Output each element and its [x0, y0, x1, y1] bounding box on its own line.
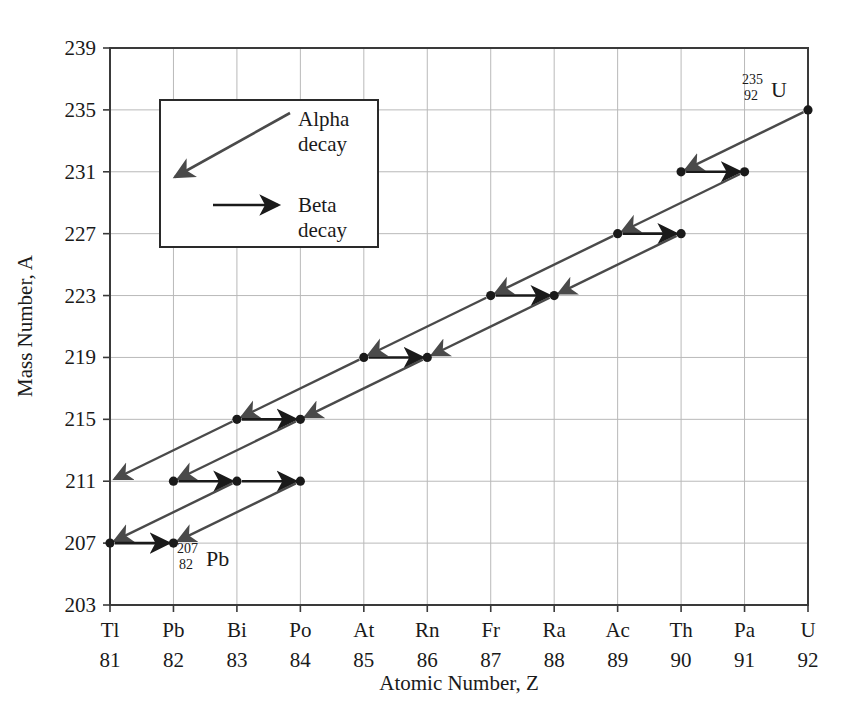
svg-text:235: 235 — [742, 72, 763, 87]
legend-box: Alpha decay Beta decay — [160, 100, 378, 247]
svg-text:Atomic Number, Z: Atomic Number, Z — [379, 671, 539, 695]
svg-text:Beta: Beta — [298, 193, 337, 217]
x-tick-label-number: 89 — [607, 648, 628, 672]
x-tick-label-number: 87 — [480, 648, 501, 672]
svg-text:decay: decay — [298, 218, 347, 242]
svg-text:Pb: Pb — [206, 546, 229, 571]
x-tick-label-symbol: Ac — [605, 618, 630, 642]
nuclide-point — [550, 291, 559, 300]
nuclide-point — [296, 477, 305, 486]
end-mass-number: 207 — [177, 541, 198, 556]
y-tick-label: 215 — [65, 407, 97, 431]
legend-alpha-label-line2: decay — [298, 132, 347, 156]
x-tick-label-number: 82 — [163, 648, 184, 672]
y-axis-tick-labels: 203207211215219223227231235239 — [65, 36, 97, 617]
x-tick-label-symbol: Pb — [162, 618, 184, 642]
end-element-symbol: Pb — [206, 546, 229, 571]
x-tick-label-symbol: U — [800, 618, 815, 642]
x-tick-label-number: 88 — [544, 648, 565, 672]
x-axis-title: Atomic Number, Z — [379, 671, 539, 695]
nuclide-point — [486, 291, 495, 300]
x-tick-label-number: 85 — [353, 648, 374, 672]
svg-text:Alpha: Alpha — [298, 107, 350, 131]
nuclide-point — [296, 415, 305, 424]
legend-beta-label-line1: Beta — [298, 193, 337, 217]
y-axis-title: Mass Number, A — [13, 254, 37, 397]
nuclide-point — [105, 539, 114, 548]
y-tick-label: 227 — [65, 222, 97, 246]
x-tick-label-symbol: Pa — [734, 618, 756, 642]
x-tick-label-number: 84 — [290, 648, 312, 672]
x-axis-tick-labels: Tl81Pb82Bi83Po84At85Rn86Fr87Ra88Ac89Th90… — [100, 618, 819, 672]
x-tick-label-number: 92 — [798, 648, 819, 672]
x-axis-title-text: Atomic Number, Z — [379, 671, 539, 695]
x-tick-label-number: 81 — [100, 648, 121, 672]
y-tick-label: 231 — [65, 160, 97, 184]
svg-text:Mass Number, A: Mass Number, A — [13, 254, 37, 397]
x-tick-label-symbol: Bi — [227, 618, 247, 642]
x-tick-label-symbol: At — [353, 618, 374, 642]
x-tick-label-number: 83 — [226, 648, 247, 672]
end-atomic-number: 82 — [179, 557, 193, 572]
x-tick-label-symbol: Ra — [543, 618, 567, 642]
svg-text:U: U — [771, 77, 787, 102]
nuclide-point — [169, 477, 178, 486]
y-tick-label: 203 — [65, 593, 97, 617]
svg-text:decay: decay — [298, 132, 347, 156]
svg-text:82: 82 — [179, 557, 193, 572]
x-tick-label-number: 90 — [671, 648, 692, 672]
legend-beta-label-line2: decay — [298, 218, 347, 242]
y-tick-label: 223 — [65, 284, 97, 308]
y-tick-label: 235 — [65, 98, 97, 122]
nuclide-point — [740, 167, 749, 176]
chart-canvas: 203207211215219223227231235239 Tl81Pb82B… — [0, 0, 855, 719]
x-tick-label-symbol: Rn — [415, 618, 440, 642]
nuclide-point — [232, 477, 241, 486]
y-tick-label: 219 — [65, 345, 97, 369]
nuclide-point — [803, 105, 812, 114]
nuclide-point — [676, 229, 685, 238]
y-tick-label: 211 — [65, 469, 96, 493]
x-tick-label-symbol: Tl — [101, 618, 120, 642]
y-tick-label: 207 — [65, 531, 97, 555]
y-tick-label: 239 — [65, 36, 97, 60]
nuclide-point — [359, 353, 368, 362]
nuclide-point — [613, 229, 622, 238]
start-mass-number: 235 — [742, 72, 763, 87]
y-axis-title-text: Mass Number, A — [13, 254, 37, 397]
start-atomic-number: 92 — [744, 88, 758, 103]
x-tick-label-symbol: Po — [289, 618, 311, 642]
nuclide-point — [232, 415, 241, 424]
x-tick-label-symbol: Fr — [481, 618, 500, 642]
x-tick-label-number: 86 — [417, 648, 438, 672]
x-tick-label-number: 91 — [734, 648, 755, 672]
svg-text:207: 207 — [177, 541, 198, 556]
nuclide-point — [423, 353, 432, 362]
x-tick-label-symbol: Th — [669, 618, 693, 642]
decay-series-figure: 203207211215219223227231235239 Tl81Pb82B… — [0, 0, 855, 719]
nuclide-point — [676, 167, 685, 176]
legend-alpha-label-line1: Alpha — [298, 107, 350, 131]
start-element-symbol: U — [771, 77, 787, 102]
svg-text:92: 92 — [744, 88, 758, 103]
